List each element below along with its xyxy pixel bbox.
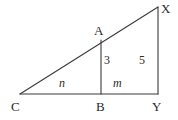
length-label-XY: 5 [139,54,145,66]
length-label-AB: 3 [104,54,110,66]
length-label-CB: n [59,77,65,89]
geometry-figure: C B Y A X 3 5 n m [0,0,178,120]
segment-hypotenuse-CX [20,7,158,94]
length-label-BY: m [113,77,122,89]
vertex-label-B: B [96,100,105,113]
vertex-label-X: X [161,2,170,15]
vertex-label-C: C [11,100,20,113]
vertex-label-A: A [94,24,103,37]
vertex-label-Y: Y [152,100,161,113]
